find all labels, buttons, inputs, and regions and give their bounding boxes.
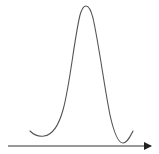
diagram-canvas [0,0,159,154]
bell-curve-diagram [0,0,159,154]
bell-curve [30,6,133,143]
